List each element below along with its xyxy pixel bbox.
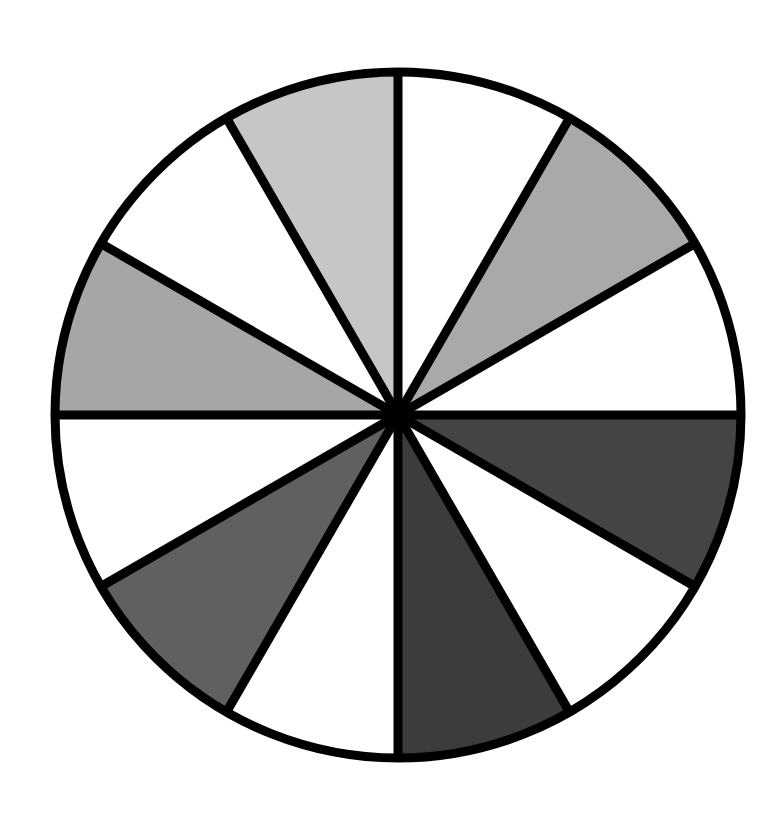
fraction-circle <box>0 0 783 830</box>
center-hub <box>386 403 410 427</box>
